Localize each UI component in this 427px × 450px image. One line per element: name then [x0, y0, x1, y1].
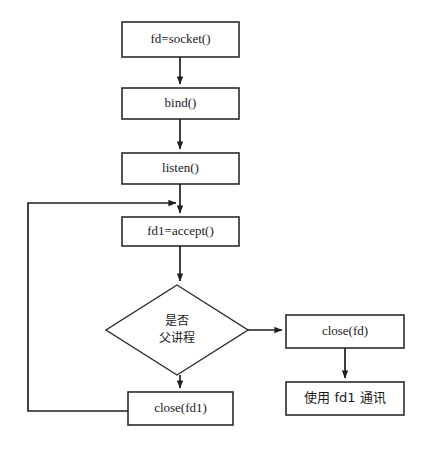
- node-box-listen: [122, 153, 239, 184]
- flowchart-canvas: fd=socket() bind() listen() fd1=accept()…: [0, 0, 427, 450]
- node-box-bind: [122, 88, 239, 119]
- node-box-close-fd1: [128, 392, 233, 425]
- flowchart-svg: [0, 0, 427, 450]
- node-box-accept: [122, 217, 239, 246]
- node-box-socket: [122, 22, 239, 57]
- node-diamond-decision: [106, 285, 248, 375]
- node-box-use-fd1: [286, 382, 404, 415]
- node-box-close-fd: [286, 315, 404, 348]
